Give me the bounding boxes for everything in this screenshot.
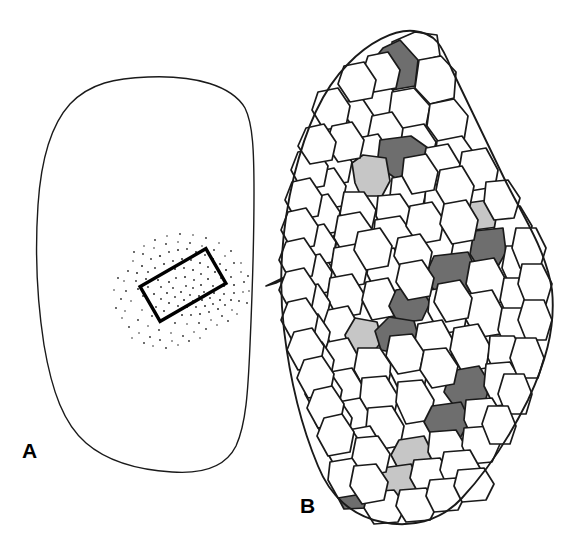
cell (482, 406, 516, 444)
stipple-patch (113, 233, 250, 349)
selection-rectangle[interactable] (140, 249, 226, 322)
panel-label-b: B (300, 494, 315, 518)
panel-a-group (37, 77, 254, 473)
cell (512, 228, 546, 268)
figure-container: A B (0, 0, 571, 548)
figure-artwork (0, 0, 571, 548)
cell (518, 300, 552, 340)
panel-label-a: A (22, 439, 37, 463)
cell-light (352, 155, 390, 196)
panel-b-group (279, 31, 553, 524)
